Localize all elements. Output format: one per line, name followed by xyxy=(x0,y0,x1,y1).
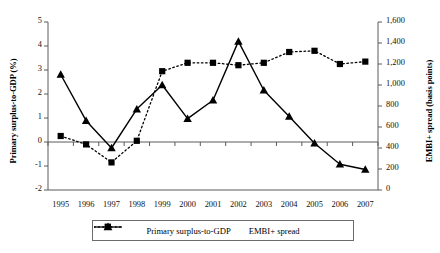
data-point-triangle xyxy=(57,70,65,78)
legend-item[interactable]: EMBI+ spread xyxy=(249,226,300,236)
legend-item[interactable]: Primary surplus-to-GDP xyxy=(146,226,230,236)
data-point-triangle xyxy=(260,86,268,94)
data-point-square xyxy=(235,62,241,68)
data-point-triangle xyxy=(209,96,217,104)
data-point-square xyxy=(159,68,165,74)
data-point-square xyxy=(108,159,114,165)
legend-triangle-icon xyxy=(93,221,123,233)
legend-label: EMBI+ spread xyxy=(249,226,300,236)
data-point-square xyxy=(337,61,343,67)
data-point-square xyxy=(58,133,64,139)
data-point-square xyxy=(210,60,216,66)
data-point-triangle xyxy=(82,117,90,125)
data-point-triangle xyxy=(234,37,242,45)
data-point-square xyxy=(311,48,317,54)
data-point-triangle xyxy=(158,81,166,89)
data-point-square xyxy=(286,49,292,55)
legend-label: Primary surplus-to-GDP xyxy=(146,226,230,236)
data-point-square xyxy=(261,60,267,66)
data-point-square xyxy=(134,138,140,144)
plot-area xyxy=(0,0,440,253)
series-line-square xyxy=(61,51,366,163)
chart-legend: Primary surplus-to-GDPEMBI+ spread xyxy=(92,220,354,241)
chart-figure: Primary surplus-to-GDP (%) EMBI+ spread … xyxy=(0,0,440,253)
data-point-square xyxy=(362,59,368,65)
data-point-square xyxy=(185,60,191,66)
data-point-square xyxy=(83,141,89,147)
